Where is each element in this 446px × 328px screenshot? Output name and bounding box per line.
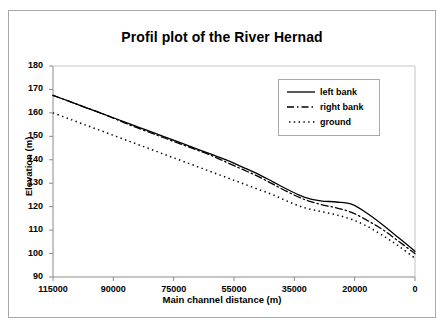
y-axis-ticks xyxy=(49,66,53,277)
y-tick-label: 130 xyxy=(13,177,43,187)
y-tick-label: 160 xyxy=(13,107,43,117)
legend-label-left-bank: left bank xyxy=(320,87,357,97)
y-tick-label: 90 xyxy=(13,271,43,281)
x-axis-ticks xyxy=(53,277,415,281)
legend-label-right-bank: right bank xyxy=(320,102,364,112)
x-tick-label: 0 xyxy=(385,284,445,294)
chart-legend: left bank right bank ground xyxy=(278,79,380,136)
legend-item-right-bank: right bank xyxy=(286,100,373,114)
legend-item-ground: ground xyxy=(286,115,373,129)
x-tick-label: 35000 xyxy=(264,284,324,294)
chart-container: Profil plot of the River Hernad Elevatio… xyxy=(8,10,436,318)
y-tick-label: 170 xyxy=(13,83,43,93)
legend-item-left-bank: left bank xyxy=(286,85,373,99)
y-tick-label: 140 xyxy=(13,154,43,164)
y-tick-label: 150 xyxy=(13,130,43,140)
x-tick-label: 55000 xyxy=(204,284,264,294)
y-tick-label: 110 xyxy=(13,224,43,234)
y-tick-label: 120 xyxy=(13,201,43,211)
legend-line-dotted-icon xyxy=(286,117,316,127)
legend-line-dashdot-icon xyxy=(286,102,316,112)
x-tick-label: 115000 xyxy=(23,284,83,294)
x-tick-label: 20000 xyxy=(325,284,385,294)
y-tick-label: 180 xyxy=(13,60,43,70)
plot-area xyxy=(9,11,437,319)
legend-line-solid-icon xyxy=(286,87,316,97)
x-tick-label: 90000 xyxy=(83,284,143,294)
x-tick-label: 75000 xyxy=(144,284,204,294)
y-tick-label: 100 xyxy=(13,248,43,258)
legend-label-ground: ground xyxy=(320,117,351,127)
